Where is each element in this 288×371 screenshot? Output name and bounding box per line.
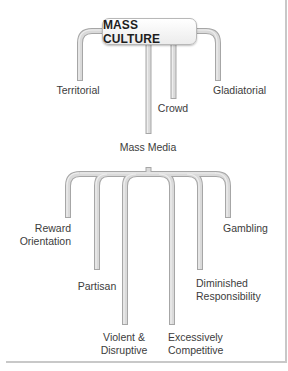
node-diminished-line2: Responsibility (196, 290, 261, 303)
node-crowd: Crowd (143, 102, 203, 115)
node-violent-disruptive: Violent & Disruptive (84, 331, 164, 357)
node-gladiatorial: Gladiatorial (213, 84, 266, 97)
node-violent-line2: Disruptive (84, 344, 164, 357)
node-gambling-line1: Gambling (223, 222, 268, 235)
node-reward-orientation-line2: Orientation (0, 235, 71, 248)
root-node-label: MASS CULTURE (103, 18, 196, 46)
node-partisan: Partisan (57, 280, 137, 293)
connector-pipes (0, 0, 288, 371)
node-reward-orientation-line1: Reward (0, 222, 71, 235)
node-mass-media: Mass Media (108, 141, 188, 154)
root-node-mass-culture: MASS CULTURE (102, 18, 197, 45)
node-gambling: Gambling (223, 222, 268, 235)
node-violent-line1: Violent & (84, 331, 164, 344)
node-diminished-responsibility: Diminished Responsibility (196, 277, 261, 303)
node-excessively-line1: Excessively (168, 331, 223, 344)
node-excessively-line2: Competitive (168, 344, 223, 357)
node-diminished-line1: Diminished (196, 277, 261, 290)
node-territorial: Territorial (38, 84, 118, 97)
node-partisan-line1: Partisan (57, 280, 137, 293)
node-reward-orientation: Reward Orientation (0, 222, 71, 248)
node-excessively-competitive: Excessively Competitive (168, 331, 223, 357)
